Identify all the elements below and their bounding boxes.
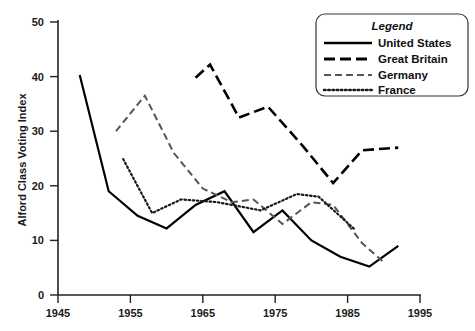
- y-axis-ticks: 50 40 30 20 10 0: [32, 16, 58, 301]
- legend-label-united-states: United States: [378, 37, 452, 49]
- x-tick-label-1995: 1995: [408, 307, 432, 319]
- y-axis-title-text: Alford Class Voting Index: [16, 93, 28, 227]
- series-line-germany: [116, 96, 384, 263]
- y-tick-label-0: 0: [38, 289, 44, 301]
- series-line-france: [123, 159, 355, 229]
- legend: Legend United States Great Britain Germa…: [316, 14, 468, 96]
- y-tick-label-20: 20: [32, 180, 44, 192]
- series-line-united-states: [80, 75, 399, 267]
- y-tick-label-50: 50: [32, 16, 44, 28]
- x-tick-label-1965: 1965: [191, 307, 215, 319]
- legend-label-germany: Germany: [378, 69, 428, 81]
- legend-title: Legend: [372, 20, 414, 32]
- y-axis-title: Alford Class Voting Index: [16, 93, 28, 227]
- line-chart-svg: Alford Class Voting Index 50 40 30 20 10…: [0, 0, 475, 331]
- x-tick-label-1955: 1955: [118, 307, 142, 319]
- y-tick-label-40: 40: [32, 71, 44, 83]
- x-tick-label-1985: 1985: [335, 307, 359, 319]
- legend-label-france: France: [378, 84, 416, 96]
- x-tick-label-1945: 1945: [46, 307, 70, 319]
- chart-container: Alford Class Voting Index 50 40 30 20 10…: [0, 0, 475, 331]
- y-tick-label-10: 10: [32, 234, 44, 246]
- y-tick-label-30: 30: [32, 125, 44, 137]
- x-axis-ticks: 1945 1955 1965 1975 1985 1995: [46, 295, 432, 319]
- legend-label-great-britain: Great Britain: [378, 53, 448, 65]
- x-tick-label-1975: 1975: [263, 307, 287, 319]
